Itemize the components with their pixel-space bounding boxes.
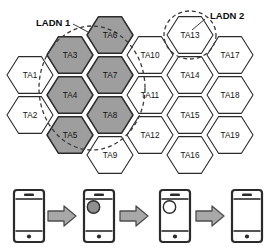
phone-speaker-icon <box>242 194 252 197</box>
tracking-area-cell-ta18 <box>207 77 253 114</box>
transition-arrow-icon <box>120 206 148 226</box>
hexagon-grid <box>7 17 253 174</box>
diagram-root: TA1TA2TA3TA4TA5TA6TA7TA8TA9TA10TA11TA12T… <box>0 0 276 248</box>
ladn-2-label: LADN 2 <box>210 10 244 21</box>
transition-arrow-icon <box>196 206 224 226</box>
phone-session-indicator-empty <box>163 201 175 213</box>
tracking-area-cell-ta19 <box>207 117 253 154</box>
phone-home-button-icon <box>27 234 31 238</box>
phone-1 <box>14 190 44 242</box>
tracking-area-cell-ta9 <box>87 137 133 174</box>
ladn-1-leader-line <box>73 24 88 32</box>
ladn-label-layer: LADN 1LADN 2 <box>36 10 244 28</box>
device-lifecycle-strip <box>14 190 262 242</box>
phone-home-button-icon <box>173 234 177 238</box>
tracking-area-cell-ta13 <box>167 17 213 54</box>
tracking-area-cell-ta3 <box>47 37 93 74</box>
phone-session-indicator-filled <box>87 201 99 213</box>
tracking-area-cell-ta10 <box>127 37 173 74</box>
phone-speaker-icon <box>24 194 34 197</box>
transition-arrow-icon <box>48 206 76 226</box>
tracking-area-cell-ta8 <box>87 97 133 134</box>
tracking-area-cell-ta17 <box>207 37 253 74</box>
tracking-area-cell-ta2 <box>7 97 53 134</box>
tracking-area-cell-ta7 <box>87 57 133 94</box>
phone-speaker-icon <box>94 194 104 197</box>
phone-speaker-icon <box>170 194 180 197</box>
phone-4 <box>232 190 262 242</box>
tracking-area-cell-ta16 <box>167 137 213 174</box>
tracking-area-cell-ta6 <box>87 17 133 54</box>
tracking-area-cell-ta15 <box>167 97 213 134</box>
tracking-area-cell-ta4 <box>47 77 93 114</box>
tracking-area-cell-ta5 <box>47 117 93 154</box>
phone-2 <box>84 190 114 242</box>
phone-home-button-icon <box>97 234 101 238</box>
tracking-area-cell-ta1 <box>7 57 53 94</box>
phone-3 <box>160 190 190 242</box>
tracking-area-cell-ta14 <box>167 57 213 94</box>
phone-home-button-icon <box>245 234 249 238</box>
ladn-1-label: LADN 1 <box>36 17 71 28</box>
cell-coverage-diagram: TA1TA2TA3TA4TA5TA6TA7TA8TA9TA10TA11TA12T… <box>0 0 276 248</box>
tracking-area-cell-ta11 <box>127 77 173 114</box>
tracking-area-cell-ta12 <box>127 117 173 154</box>
